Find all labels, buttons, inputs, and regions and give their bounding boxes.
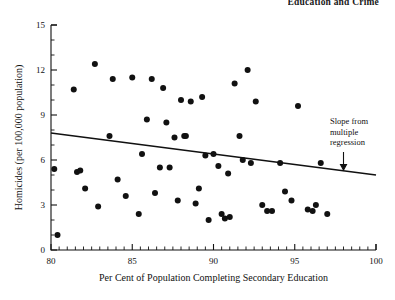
y-axis-title: Homicides (per 100,000 population) — [13, 65, 25, 211]
annotation-line: regression — [330, 137, 366, 147]
data-point — [160, 85, 166, 91]
y-axis-tick-label: 0 — [41, 245, 46, 255]
data-point — [152, 190, 158, 196]
data-point — [232, 81, 238, 87]
scatter-plot: 0369121580859095100Per Cent of Populatio… — [0, 0, 395, 300]
y-axis-tick-label: 3 — [41, 200, 46, 210]
annotation-line: Slope from — [330, 116, 368, 126]
data-point — [178, 97, 184, 103]
data-point — [123, 193, 129, 199]
data-point — [206, 217, 212, 223]
data-point — [71, 87, 77, 93]
y-axis-tick-label: 15 — [36, 20, 46, 30]
data-point — [324, 211, 330, 217]
data-point — [240, 157, 246, 163]
data-point — [129, 75, 135, 81]
data-point — [82, 186, 88, 192]
data-point — [163, 120, 169, 126]
annotation-arrow-head — [341, 165, 347, 171]
data-point — [183, 133, 189, 139]
data-point — [144, 117, 150, 123]
data-point — [318, 160, 324, 166]
data-point — [202, 153, 208, 159]
data-point — [313, 202, 319, 208]
y-axis-tick-label: 12 — [36, 65, 45, 75]
data-point — [110, 76, 116, 82]
data-point — [139, 151, 145, 157]
data-point — [172, 135, 178, 141]
data-point — [199, 94, 205, 100]
data-point — [289, 198, 295, 204]
x-axis-tick-label: 95 — [290, 256, 300, 266]
data-point — [157, 165, 163, 171]
data-point — [248, 160, 254, 166]
data-point — [55, 232, 61, 238]
data-point — [167, 165, 173, 171]
data-point — [259, 202, 265, 208]
figure-education-and-crime: Education and Crime 0369121580859095100P… — [0, 0, 395, 300]
data-point — [77, 168, 83, 174]
x-axis-tick-label: 80 — [47, 256, 57, 266]
data-point — [277, 160, 283, 166]
data-point — [211, 151, 217, 157]
data-point — [188, 99, 194, 105]
annotation-line: multiple — [330, 127, 359, 137]
data-point — [196, 186, 202, 192]
x-axis-tick-label: 90 — [209, 256, 219, 266]
data-point — [175, 198, 181, 204]
data-point — [282, 189, 288, 195]
y-axis-tick-label: 6 — [41, 155, 46, 165]
data-point — [295, 103, 301, 109]
y-axis-tick-label: 9 — [41, 110, 46, 120]
x-axis-tick-label: 85 — [128, 256, 138, 266]
annotation-layer: Slope frommultipleregression — [330, 116, 368, 170]
data-point — [92, 61, 98, 67]
data-point — [225, 171, 231, 177]
data-point — [269, 208, 275, 214]
x-axis-title: Per Cent of Population Completing Second… — [99, 272, 328, 283]
data-point — [107, 133, 113, 139]
data-point — [115, 177, 121, 183]
data-points-layer — [51, 61, 330, 238]
data-point — [245, 67, 251, 73]
data-point — [193, 201, 199, 207]
data-point — [95, 204, 101, 210]
data-point — [215, 163, 221, 169]
data-point — [310, 208, 316, 214]
x-axis-tick-label: 100 — [369, 256, 383, 266]
data-point — [253, 99, 259, 105]
data-point — [51, 166, 57, 172]
data-point — [237, 133, 243, 139]
data-point — [149, 76, 155, 82]
data-point — [136, 211, 142, 217]
data-point — [227, 214, 233, 220]
